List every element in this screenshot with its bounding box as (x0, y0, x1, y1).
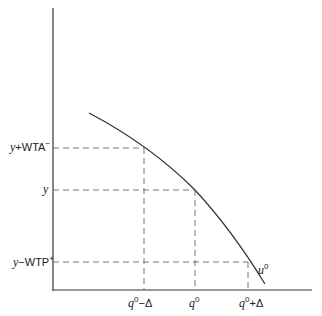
y-label-wta: y+WTA− (10, 141, 50, 153)
indifference-diagram (0, 0, 322, 316)
indifference-curve-u0 (89, 113, 265, 284)
x-label-q0: q0 (189, 297, 199, 309)
x-label-q0-plus: q0+Δ (239, 297, 263, 309)
y-label-y: y (43, 183, 48, 195)
y-label-wtp: y−WTP+ (13, 256, 54, 268)
x-label-q0-minus: q0−Δ (128, 297, 152, 309)
curve-label-u0: u0 (258, 264, 268, 276)
